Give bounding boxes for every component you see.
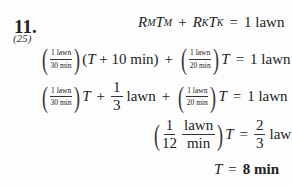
denominator: 20 min: [187, 97, 208, 107]
equation-line-5: T = 8 min: [214, 161, 279, 178]
one-third-fraction: 13: [111, 80, 123, 113]
subscript: K: [202, 17, 209, 28]
equals-sign: =: [240, 126, 248, 143]
numerator: 1 lawn: [50, 87, 72, 98]
denominator: 30 min: [51, 97, 72, 107]
equals-sign: =: [228, 161, 236, 178]
equals-sign: =: [236, 51, 244, 68]
equals-sign: =: [233, 88, 241, 105]
group-expression: (T + 10 min): [82, 51, 158, 68]
subscript: M: [147, 17, 155, 28]
unit-label: lawn: [269, 126, 292, 143]
equation-line-2: ( 1 lawn30 min ) (T + 10 min) + ( 1 lawn…: [40, 44, 291, 74]
denominator: 20 min: [190, 60, 211, 70]
rhs-value: 1 lawn: [250, 51, 290, 68]
equation-line-4: ( 112 lawnmin ) T = 23 lawn: [152, 118, 292, 151]
equals-sign: =: [230, 14, 238, 31]
equation-line-3: ( 1 lawn30 min ) T + 13 lawn + ( 1 lawn2…: [40, 80, 288, 113]
plus-sign: +: [97, 88, 105, 105]
numerator: lawn: [182, 118, 215, 135]
rate-fraction: ( 1 lawn30 min ): [40, 82, 82, 112]
denominator: min: [187, 135, 210, 151]
numerator: 1 lawn: [186, 87, 208, 98]
time-symbol: T: [225, 126, 233, 143]
time-symbol: T: [156, 14, 164, 31]
final-answer: 8 min: [243, 161, 279, 178]
equation-line-1: RMTM + RKTK = 1 lawn: [138, 14, 284, 31]
subscript: K: [217, 17, 224, 28]
time-symbol: T: [209, 14, 217, 31]
time-symbol: T: [221, 51, 229, 68]
denominator: 12: [162, 135, 177, 151]
two-thirds-fraction: 23: [254, 118, 266, 151]
rate-symbol: R: [193, 14, 202, 31]
numerator: 1: [111, 80, 123, 97]
rate-fraction: ( 1 lawn20 min ): [179, 44, 221, 74]
time-symbol: T: [214, 161, 222, 178]
numerator: 1: [164, 118, 176, 135]
denominator: 3: [113, 97, 121, 113]
time-symbol: T: [218, 88, 226, 105]
rate-fraction: ( 1 lawn30 min ): [40, 44, 82, 74]
lesson-reference: (25): [13, 32, 31, 44]
rate-fraction: ( 1 lawn20 min ): [176, 82, 218, 112]
plus-sign: +: [165, 51, 173, 68]
numerator: 1 lawn: [189, 49, 211, 60]
combined-rate: ( 112 lawnmin ): [152, 118, 225, 151]
rate-symbol: R: [138, 14, 147, 31]
denominator: 30 min: [51, 60, 72, 70]
rhs-value: 1 lawn: [247, 88, 287, 105]
rhs-value: 1 lawn: [244, 14, 284, 31]
subscript: M: [164, 17, 172, 28]
denominator: 3: [256, 135, 264, 151]
numerator: 2: [254, 118, 266, 135]
numerator: 1 lawn: [50, 49, 72, 60]
plus-sign: +: [162, 88, 170, 105]
plus-sign: +: [178, 14, 186, 31]
time-symbol: T: [82, 88, 90, 105]
unit-label: lawn: [127, 88, 156, 105]
